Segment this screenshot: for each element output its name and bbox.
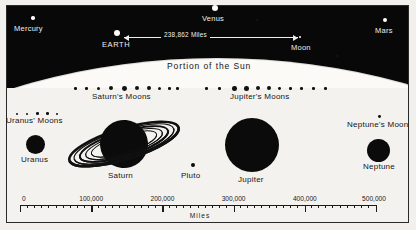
axis-tick-label: 400,000 — [293, 195, 317, 202]
axis-title: Miles — [190, 212, 210, 219]
distance-axis: 0 100,000 200,000 300,000 400,000 500,00… — [0, 0, 416, 230]
axis-minor-tick — [332, 205, 333, 208]
axis-minor-tick — [183, 205, 184, 208]
axis-major-tick — [162, 205, 163, 212]
axis-minor-tick — [240, 205, 241, 208]
axis-minor-tick — [169, 205, 170, 208]
axis-minor-tick — [297, 205, 298, 208]
axis-tick-label: 300,000 — [222, 195, 246, 202]
axis-minor-tick — [318, 205, 319, 208]
axis-minor-tick — [198, 205, 199, 208]
axis-minor-tick — [276, 205, 277, 208]
axis-minor-tick — [63, 205, 64, 208]
axis-minor-tick — [325, 205, 326, 208]
axis-minor-tick — [134, 205, 135, 208]
axis-minor-tick — [34, 205, 35, 208]
axis-minor-tick — [27, 205, 28, 208]
axis-minor-tick — [368, 205, 369, 208]
axis-minor-tick — [105, 205, 106, 208]
axis-minor-tick — [127, 205, 128, 208]
axis-tick-label: 200,000 — [150, 195, 174, 202]
axis-minor-tick — [148, 205, 149, 208]
axis-major-tick — [234, 205, 235, 212]
axis-minor-tick — [141, 205, 142, 208]
axis-minor-tick — [283, 205, 284, 208]
axis-tick-label: 100,000 — [79, 195, 103, 202]
axis-minor-tick — [340, 205, 341, 208]
axis-minor-tick — [84, 205, 85, 208]
axis-minor-tick — [347, 205, 348, 208]
axis-major-tick — [20, 205, 21, 212]
axis-minor-tick — [261, 205, 262, 208]
axis-major-tick — [376, 205, 377, 212]
axis-minor-tick — [77, 205, 78, 208]
axis-minor-tick — [41, 205, 42, 208]
axis-major-tick — [305, 205, 306, 212]
axis-minor-tick — [290, 205, 291, 208]
axis-minor-tick — [354, 205, 355, 208]
axis-minor-tick — [98, 205, 99, 208]
axis-minor-tick — [48, 205, 49, 208]
axis-minor-tick — [269, 205, 270, 208]
axis-minor-tick — [219, 205, 220, 208]
axis-minor-tick — [361, 205, 362, 208]
axis-tick-label: 0 — [22, 195, 26, 202]
axis-minor-tick — [205, 205, 206, 208]
astronomy-scale-figure: Portion of the Sun Mercury Venus EARTH M… — [0, 0, 416, 230]
axis-minor-tick — [226, 205, 227, 208]
axis-minor-tick — [112, 205, 113, 208]
axis-minor-tick — [119, 205, 120, 208]
axis-minor-tick — [311, 205, 312, 208]
axis-minor-tick — [254, 205, 255, 208]
axis-minor-tick — [155, 205, 156, 208]
axis-minor-tick — [190, 205, 191, 208]
axis-major-tick — [91, 205, 92, 212]
axis-minor-tick — [70, 205, 71, 208]
axis-tick-label: 500,000 — [362, 195, 386, 202]
axis-minor-tick — [212, 205, 213, 208]
axis-minor-tick — [176, 205, 177, 208]
axis-minor-tick — [56, 205, 57, 208]
axis-minor-tick — [247, 205, 248, 208]
